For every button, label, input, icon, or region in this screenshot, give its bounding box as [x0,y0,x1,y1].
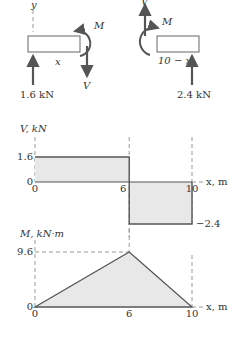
moment-diagram: M, kN·m x, m 0 6 10 9.6 0 [17,228,228,319]
shear-label-left: V [83,80,92,91]
fbd-right: V M 10 − x 2.4 kN [140,0,211,100]
shear-negative-area [129,182,192,224]
beam-segment-left [28,36,80,52]
shear-ytick-1.6: 1.6 [17,151,33,162]
shear-xtick-6: 6 [120,183,126,194]
moment-xtick-6: 6 [126,308,132,319]
moment-xtick-10: 10 [186,308,199,319]
moment-area [35,252,192,307]
reaction-label-left: 1.6 kN [20,89,54,100]
length-label-right: 10 − x [158,55,191,66]
shear-ytick-neg2.4: −2.4 [196,218,220,229]
diagram-canvas: y 1.6 kN x M V V M 10 − x 2.4 kN V, kN x… [0,0,241,349]
moment-ylabel: M, kN·m [19,228,64,239]
moment-ylabel-text: M, kN·m [19,228,64,239]
x-length-label: x [55,56,61,67]
y-axis-label: y [30,0,37,10]
shear-ylabel-text: V, kN [20,123,48,134]
shear-label-right: V [141,0,150,7]
fbd-left: y 1.6 kN x M V [20,0,105,100]
moment-ytick-9.6: 9.6 [17,246,33,257]
shear-diagram: V, kN x, m 0 6 10 1.6 0 −2.4 [17,123,228,237]
shear-xlabel: x, m [206,176,228,187]
moment-ytick-0: 0 [27,301,33,312]
shear-xtick-10: 10 [186,183,199,194]
moment-label-left: M [93,20,105,31]
shear-positive-area [35,157,129,182]
moment-arrow-right [140,27,158,55]
moment-xlabel: x, m [206,301,228,312]
reaction-label-right: 2.4 kN [177,89,211,100]
shear-ylabel: V, kN [20,123,48,134]
beam-segment-right [157,36,199,52]
moment-label-right: M [161,16,173,27]
shear-ytick-0: 0 [27,176,33,187]
